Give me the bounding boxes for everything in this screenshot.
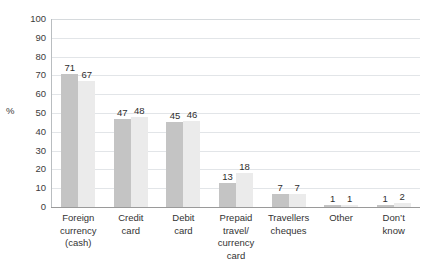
bar-value-label: 1 (377, 193, 394, 204)
y-axis-unit-label: % (6, 106, 14, 116)
bar-series-2: 48 (131, 117, 148, 207)
plot-area: 7167474845461318771112 (52, 19, 420, 207)
bar-series-2: 7 (289, 194, 306, 207)
bar-series-1: 71 (61, 74, 78, 207)
bar-series-2: 1 (341, 205, 358, 207)
x-axis-baseline (51, 207, 420, 208)
bar-series-1: 45 (166, 122, 183, 207)
bar-series-1: 13 (219, 183, 236, 207)
y-axis-tick-label: 60 (20, 89, 46, 99)
y-axis-tick-label: 0 (20, 202, 46, 212)
bar-value-label: 67 (78, 69, 95, 80)
bar-value-label: 13 (219, 171, 236, 182)
bar-group: 4546 (166, 19, 200, 207)
bar-series-1: 1 (377, 205, 394, 207)
bar-value-label: 1 (341, 193, 358, 204)
bar-value-label: 71 (61, 62, 78, 73)
bar-group: 1318 (219, 19, 253, 207)
category-label: Don’t know (361, 212, 426, 237)
y-axis-tick-label: 90 (20, 33, 46, 43)
bar-group: 11 (324, 19, 358, 207)
y-axis-tick-label: 40 (20, 127, 46, 137)
bar-value-label: 2 (394, 191, 411, 202)
bar-series-1: 7 (272, 194, 289, 207)
y-axis-tick-label: 50 (20, 108, 46, 118)
y-axis-tick-label: 70 (20, 70, 46, 80)
bar-value-label: 48 (131, 105, 148, 116)
bar-series-2: 67 (78, 81, 95, 207)
bar-series-2: 46 (183, 121, 200, 207)
bar-value-label: 7 (289, 182, 306, 193)
bar-group: 4748 (114, 19, 148, 207)
y-axis-tick-label: 10 (20, 183, 46, 193)
bar-value-label: 1 (324, 193, 341, 204)
bar-group: 7167 (61, 19, 95, 207)
y-axis-tick-label: 20 (20, 164, 46, 174)
y-axis-tick-label: 80 (20, 52, 46, 62)
bar-series-2: 18 (236, 173, 253, 207)
bar-series-1: 1 (324, 205, 341, 207)
bar-chart: % 1009080706050403020100 716747484546131… (0, 0, 434, 273)
bar-value-label: 45 (166, 110, 183, 121)
bar-series-2: 2 (394, 203, 411, 207)
bar-group: 77 (272, 19, 306, 207)
bar-value-label: 46 (183, 109, 200, 120)
bar-group: 12 (377, 19, 411, 207)
y-axis-tick-label: 30 (20, 146, 46, 156)
y-axis-tick-label: 100 (20, 14, 46, 24)
bar-series-1: 47 (114, 119, 131, 207)
bar-value-label: 7 (272, 182, 289, 193)
bar-value-label: 47 (114, 107, 131, 118)
bar-value-label: 18 (236, 161, 253, 172)
